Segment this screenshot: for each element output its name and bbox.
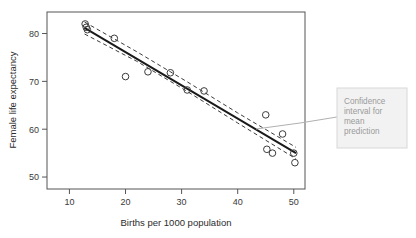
- x-tick-label: 20: [121, 197, 131, 207]
- x-axis-title: Births per 1000 population: [121, 217, 232, 228]
- data-point-marker: [292, 159, 299, 166]
- callout-line-1: Confidence: [344, 97, 386, 106]
- y-tick-label: 70: [29, 77, 39, 87]
- callout-line-3: mean: [344, 117, 365, 126]
- chart-figure: 1020304050 50607080 Births per 1000 popu…: [0, 0, 416, 238]
- callout-line-2: interval for: [344, 107, 382, 116]
- scatter-plot-svg: 1020304050 50607080 Births per 1000 popu…: [0, 0, 416, 238]
- x-axis-ticks: 1020304050: [64, 189, 298, 207]
- data-point-marker: [145, 68, 152, 75]
- y-axis-ticks: 50607080: [29, 29, 47, 183]
- callout-leader-line: [256, 117, 337, 129]
- x-tick-label: 40: [233, 197, 243, 207]
- y-axis-title: Female life expectancy: [7, 51, 18, 148]
- confidence-band-lower: [85, 34, 296, 159]
- y-tick-label: 60: [29, 125, 39, 135]
- x-tick-label: 50: [289, 197, 299, 207]
- data-point-marker: [279, 131, 286, 138]
- data-point-marker: [269, 150, 276, 157]
- y-tick-label: 50: [29, 172, 39, 182]
- callout-line-4: prediction: [344, 127, 380, 136]
- y-tick-label: 80: [29, 29, 39, 39]
- x-tick-label: 10: [64, 197, 74, 207]
- data-point-marker: [262, 112, 269, 119]
- data-point-marker: [111, 35, 118, 42]
- data-point-marker: [122, 73, 129, 80]
- plot-frame: [47, 12, 305, 189]
- x-tick-label: 30: [177, 197, 187, 207]
